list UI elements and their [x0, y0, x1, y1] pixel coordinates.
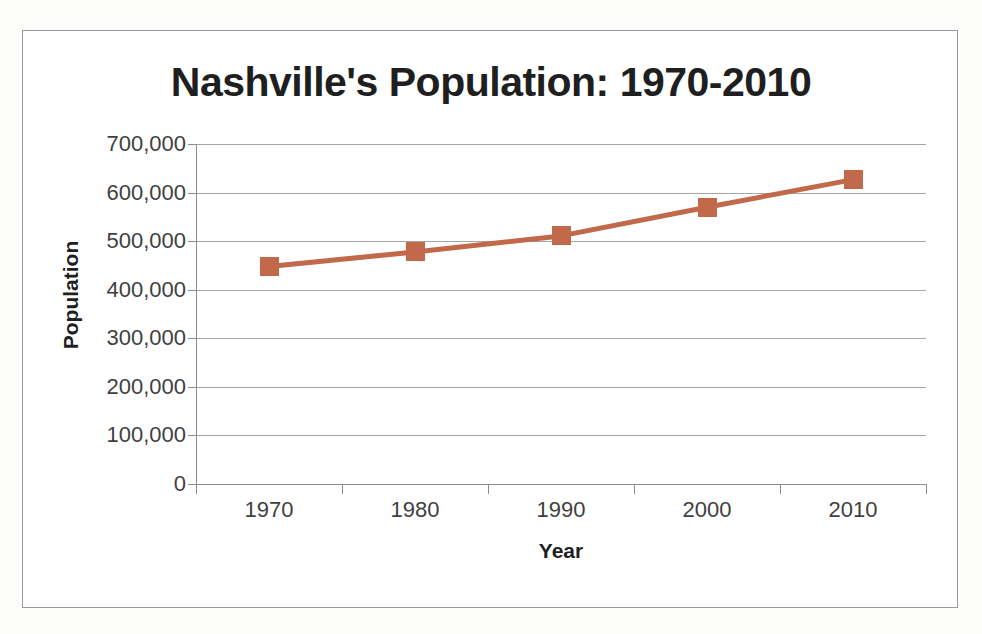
y-axis-tick: [188, 241, 196, 242]
y-axis-tick: [188, 387, 196, 388]
y-axis-tick: [188, 144, 196, 145]
y-axis-tick-label: 200,000: [66, 374, 186, 400]
data-point-marker: [406, 242, 425, 261]
y-axis-tick-label: 100,000: [66, 422, 186, 448]
x-axis-tick-label: 2010: [780, 497, 926, 523]
data-point-marker: [844, 170, 863, 189]
x-axis-line: [195, 484, 927, 485]
y-axis-tick-label: 500,000: [66, 228, 186, 254]
plot-area: [196, 144, 926, 484]
y-axis-tick-label: 600,000: [66, 180, 186, 206]
y-axis-tick: [188, 338, 196, 339]
y-axis-tick: [188, 193, 196, 194]
x-axis-tick: [196, 485, 197, 494]
x-axis-tick: [342, 485, 343, 494]
y-axis-tick-label: 400,000: [66, 277, 186, 303]
y-axis-tick: [188, 290, 196, 291]
y-axis-tick-label: 300,000: [66, 325, 186, 351]
data-point-marker: [552, 226, 571, 245]
y-axis-tick-label: 0: [66, 471, 186, 497]
scanned-page: Nashville's Population: 1970-2010 0100,0…: [0, 0, 982, 634]
x-axis-tick-labels: 19701980199020002010: [196, 497, 926, 531]
x-axis-tick: [634, 485, 635, 494]
x-axis-tick: [780, 485, 781, 494]
series-line: [196, 144, 926, 484]
y-axis-tick: [188, 435, 196, 436]
x-axis-tick-label: 1970: [196, 497, 342, 523]
data-point-marker: [260, 257, 279, 276]
x-axis-tick-label: 1980: [342, 497, 488, 523]
data-point-marker: [698, 198, 717, 217]
y-axis-title: Population: [59, 225, 83, 365]
y-axis-tick-label: 700,000: [66, 131, 186, 157]
x-axis-tick: [488, 485, 489, 494]
x-axis-tick-label: 1990: [488, 497, 634, 523]
chart-frame: Nashville's Population: 1970-2010 0100,0…: [22, 30, 958, 608]
chart-title: Nashville's Population: 1970-2010: [23, 59, 959, 106]
x-axis-tick: [926, 485, 927, 494]
x-axis-tick-label: 2000: [634, 497, 780, 523]
x-axis-title: Year: [196, 539, 926, 563]
